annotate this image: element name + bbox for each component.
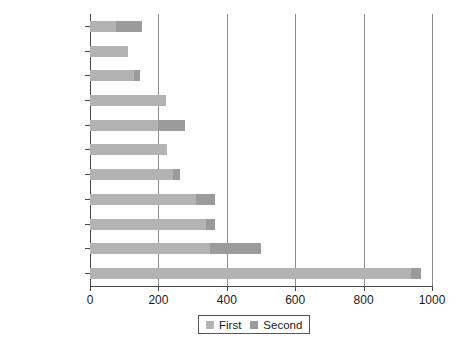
bar-segment-first [90, 268, 411, 279]
bar-stack [90, 21, 142, 32]
bar-row: Mandarin [90, 261, 432, 286]
y-tick-mark [85, 199, 90, 200]
bar-stack [90, 120, 185, 131]
chart-legend: FirstSecond [198, 315, 310, 334]
legend-swatch-icon [206, 321, 214, 329]
bar-row: French [90, 14, 432, 39]
bar-segment-first [90, 243, 210, 254]
y-tick-mark [85, 100, 90, 101]
x-tick-mark-800 [364, 286, 365, 291]
x-tick-mark-400 [227, 286, 228, 291]
y-tick-mark [85, 273, 90, 274]
x-tick-label: 400 [217, 293, 237, 307]
bar-row: English [90, 237, 432, 262]
y-tick-mark [85, 51, 90, 52]
bar-stack [90, 243, 261, 254]
bar-segment-second [173, 169, 179, 180]
bar-segment-first [90, 70, 134, 81]
x-tick-mark-200 [158, 286, 159, 291]
y-tick-mark [85, 224, 90, 225]
bar-chart: FrenchGermanJapanesePortugueseRussianBen… [0, 0, 466, 348]
bar-row: Portuguese [90, 88, 432, 113]
bar-segment-second [206, 219, 215, 230]
bar-row: Russian [90, 113, 432, 138]
x-tick-label: 0 [87, 293, 94, 307]
bar-row: Arabic [90, 162, 432, 187]
bar-segment-second [196, 194, 215, 205]
bar-stack [90, 144, 167, 155]
bar-segment-first [90, 46, 128, 57]
x-tick-label: 200 [148, 293, 168, 307]
bar-stack [90, 169, 180, 180]
bar-segment-first [90, 194, 196, 205]
bar-stack [90, 219, 215, 230]
y-tick-mark [85, 26, 90, 27]
x-tick-label: 1000 [419, 293, 446, 307]
legend-entry: First [206, 319, 241, 331]
bar-segment-second [134, 70, 140, 81]
legend-swatch-icon [250, 321, 258, 329]
x-tick-mark-0 [90, 286, 91, 291]
y-tick-mark [85, 248, 90, 249]
bar-segment-first [90, 169, 173, 180]
bar-segment-second [158, 120, 185, 131]
y-tick-mark [85, 174, 90, 175]
bar-segment-second [411, 268, 421, 279]
bar-row: Bengali [90, 138, 432, 163]
x-tick-mark-1000 [432, 286, 433, 291]
bar-stack [90, 95, 166, 106]
legend-label: Second [263, 319, 302, 331]
y-tick-mark [85, 75, 90, 76]
y-tick-mark [85, 125, 90, 126]
bar-stack [90, 194, 215, 205]
plot-area: FrenchGermanJapanesePortugueseRussianBen… [90, 14, 432, 286]
x-tick-mark-600 [295, 286, 296, 291]
y-tick-mark [85, 149, 90, 150]
legend-entry: Second [250, 319, 302, 331]
grid-line-1000 [432, 14, 433, 286]
bar-segment-second [210, 243, 261, 254]
bar-segment-first [90, 21, 116, 32]
bar-stack [90, 46, 128, 57]
bar-segment-first [90, 144, 167, 155]
bar-segment-second [116, 21, 142, 32]
bar-stack [90, 70, 140, 81]
x-tick-label: 600 [285, 293, 305, 307]
x-axis-line [90, 286, 433, 287]
bar-segment-first [90, 219, 206, 230]
bar-stack [90, 268, 421, 279]
bar-row: Hindi [90, 187, 432, 212]
bar-segment-first [90, 120, 158, 131]
x-tick-label: 800 [354, 293, 374, 307]
bar-row: German [90, 39, 432, 64]
legend-label: First [219, 319, 241, 331]
bar-row: Japanese [90, 63, 432, 88]
bar-segment-first [90, 95, 166, 106]
bar-row: Spanish [90, 212, 432, 237]
